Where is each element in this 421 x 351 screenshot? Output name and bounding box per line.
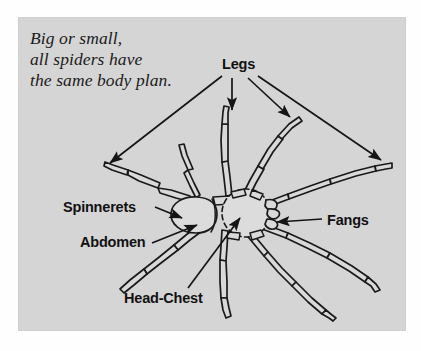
label-legs: Legs (222, 56, 255, 72)
caption-text: Big or small, all spiders have the same … (30, 28, 220, 91)
leg-upper-left (104, 162, 191, 202)
caption-line-3: the same body plan. (30, 70, 220, 91)
cephalothorax-shape (222, 189, 270, 237)
fangs-group (265, 200, 280, 230)
label-spinnerets: Spinnerets (63, 199, 136, 215)
label-head-chest: Head-Chest (124, 290, 203, 306)
leader-fangs (277, 219, 322, 222)
caption-line-2: all spiders have (30, 49, 220, 70)
caption-line-1: Big or small, (30, 28, 220, 49)
label-fangs: Fangs (327, 212, 369, 228)
abdomen-shape (171, 197, 217, 233)
leg-lower-right-lower (244, 228, 336, 321)
leg-upper-right (243, 117, 302, 197)
figure-page: Big or small, all spiders have the same … (0, 0, 421, 351)
label-abdomen: Abdomen (80, 234, 145, 250)
leg-vertical-center (221, 106, 232, 196)
leg-left-mid-upper (179, 144, 200, 198)
